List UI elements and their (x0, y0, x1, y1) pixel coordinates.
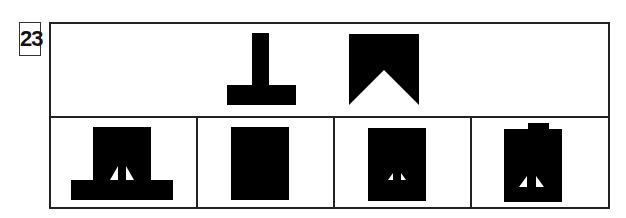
prompt-figure-notched-rectangle-icon (349, 34, 419, 105)
option-2-figure-icon[interactable] (231, 127, 289, 200)
prompt-figure-inverted-t-icon (227, 33, 296, 105)
figures-canvas (0, 0, 626, 218)
option-4-figure-icon[interactable] (504, 123, 562, 202)
option-1-figure-icon[interactable] (71, 127, 173, 200)
option-3-figure-icon[interactable] (368, 128, 426, 201)
